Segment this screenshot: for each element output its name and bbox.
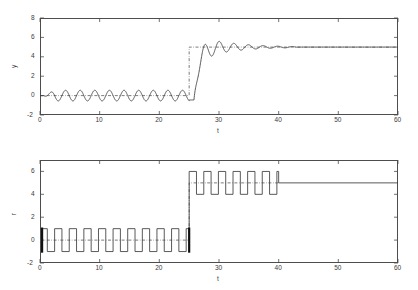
top-ytick-8: 8 bbox=[31, 15, 35, 22]
top-ytick-4: 4 bbox=[31, 53, 35, 60]
top-ytick-2: 2 bbox=[31, 73, 35, 80]
bottom-ytick-2: 2 bbox=[31, 214, 35, 221]
bottom-xtick-20: 20 bbox=[155, 265, 162, 272]
top-plot-panel: -2 0 2 4 6 8 0 10 20 30 40 50 60 y t bbox=[0, 0, 418, 145]
bottom-y-ticks bbox=[40, 171, 398, 263]
top-x-ticks bbox=[40, 18, 398, 115]
top-output-trace bbox=[40, 41, 398, 101]
bottom-control-trace bbox=[40, 171, 398, 251]
top-y-axis-label: y bbox=[11, 65, 18, 68]
bottom-xtick-60: 60 bbox=[394, 265, 401, 272]
top-xtick-60: 60 bbox=[394, 117, 401, 124]
bottom-plot-panel: -2 0 2 4 6 0 10 20 30 40 50 60 r t bbox=[0, 145, 418, 290]
bottom-xtick-30: 30 bbox=[215, 265, 222, 272]
bottom-ytick-0: 0 bbox=[31, 237, 35, 244]
top-ytick-6: 6 bbox=[31, 34, 35, 41]
top-ytick--2: -2 bbox=[27, 112, 33, 119]
top-x-axis-label: t bbox=[217, 128, 219, 135]
top-plot-drawing bbox=[0, 0, 418, 145]
top-xtick-50: 50 bbox=[334, 117, 341, 124]
bottom-xtick-0: 0 bbox=[38, 265, 42, 272]
bottom-xtick-10: 10 bbox=[96, 265, 103, 272]
bottom-ytick--2: -2 bbox=[27, 260, 33, 267]
top-xtick-30: 30 bbox=[215, 117, 222, 124]
top-y-ticks bbox=[40, 18, 398, 115]
bottom-xtick-50: 50 bbox=[334, 265, 341, 272]
bottom-ytick-4: 4 bbox=[31, 191, 35, 198]
bottom-x-ticks bbox=[40, 160, 398, 263]
bottom-plot-drawing bbox=[0, 145, 418, 290]
figure-canvas: -2 0 2 4 6 8 0 10 20 30 40 50 60 y t bbox=[0, 0, 418, 290]
bottom-xtick-40: 40 bbox=[275, 265, 282, 272]
top-reference-line bbox=[40, 47, 398, 96]
bottom-reference-line bbox=[40, 183, 279, 240]
top-xtick-20: 20 bbox=[155, 117, 162, 124]
bottom-ytick-6: 6 bbox=[31, 168, 35, 175]
bottom-x-axis-label: t bbox=[217, 276, 219, 283]
top-xtick-40: 40 bbox=[275, 117, 282, 124]
top-ytick-0: 0 bbox=[31, 92, 35, 99]
bottom-y-axis-label: r bbox=[11, 213, 18, 215]
top-xtick-10: 10 bbox=[96, 117, 103, 124]
top-xtick-0: 0 bbox=[38, 117, 42, 124]
